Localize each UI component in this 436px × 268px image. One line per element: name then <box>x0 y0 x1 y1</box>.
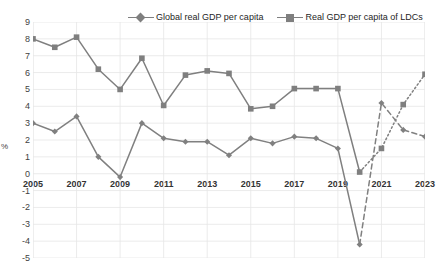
y-axis-tick-label: 9 <box>4 18 30 27</box>
y-axis-tick-label: 7 <box>4 51 30 60</box>
plot-area <box>33 22 425 258</box>
data-point-square <box>226 71 232 77</box>
data-point-square <box>379 146 385 152</box>
data-series-layer <box>33 22 425 258</box>
y-axis-tick-label: -2 <box>4 203 30 212</box>
gdp-per-capita-line-chart: % 9876543210-1-2-3-4-5 20052007200920112… <box>0 0 436 268</box>
y-axis-tick-label: 3 <box>4 119 30 128</box>
data-point-square <box>270 103 276 109</box>
diamond-marker-icon <box>128 13 154 22</box>
y-axis-tick-label: 8 <box>4 34 30 43</box>
square-marker-icon <box>277 13 303 22</box>
chart-legend: Global real GDP per capita Real GDP per … <box>128 12 423 22</box>
data-point-square <box>400 102 406 108</box>
data-point-diamond <box>182 139 188 145</box>
y-axis-tick-label: 2 <box>4 136 30 145</box>
data-point-square <box>204 68 210 74</box>
data-point-square <box>74 34 80 40</box>
y-axis-tick-label: 6 <box>4 68 30 77</box>
data-point-diamond <box>270 140 276 146</box>
y-axis-tick-label: -3 <box>4 220 30 229</box>
series-line-actual-1 <box>33 37 360 172</box>
data-point-square <box>248 106 254 112</box>
data-point-square <box>357 169 363 175</box>
data-point-diamond <box>422 134 425 140</box>
data-point-square <box>161 103 167 109</box>
data-point-square <box>96 66 102 72</box>
data-point-square <box>313 86 319 92</box>
legend-label-global: Global real GDP per capita <box>156 12 263 22</box>
data-point-square <box>335 86 341 92</box>
data-point-square <box>52 44 58 50</box>
data-point-diamond <box>357 241 363 247</box>
data-point-square <box>183 72 189 78</box>
y-axis-tick-label: 5 <box>4 85 30 94</box>
legend-item-global[interactable]: Global real GDP per capita <box>128 12 263 22</box>
data-point-square <box>33 36 36 42</box>
data-point-diamond <box>313 135 319 141</box>
legend-item-ldc[interactable]: Real GDP per capita of LDCs <box>277 12 422 22</box>
y-axis-tick-label: -4 <box>4 237 30 246</box>
series-line-actual-0 <box>33 116 360 244</box>
data-point-diamond <box>33 120 36 126</box>
y-axis-tick-label: 4 <box>4 102 30 111</box>
series-line-projection-0 <box>360 103 425 245</box>
y-axis-tick-label: 1 <box>4 152 30 161</box>
data-point-square <box>422 71 425 77</box>
data-point-square <box>292 86 298 92</box>
y-axis-tick-labels: 9876543210-1-2-3-4-5 <box>0 22 30 258</box>
y-axis-tick-label: -5 <box>4 254 30 263</box>
series-line-projection-1 <box>360 74 425 172</box>
data-point-diamond <box>335 145 341 151</box>
data-point-diamond <box>291 134 297 140</box>
legend-label-ldc: Real GDP per capita of LDCs <box>305 12 422 22</box>
data-point-square <box>139 55 145 61</box>
y-axis-tick-label: 0 <box>4 169 30 178</box>
data-point-square <box>117 87 123 93</box>
